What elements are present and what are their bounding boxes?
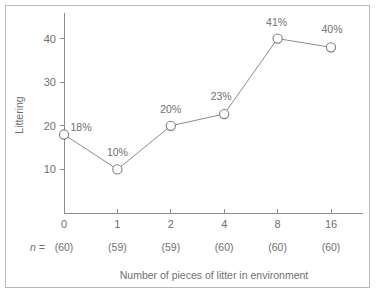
data-point-label: 41% xyxy=(266,16,287,28)
data-point-marker xyxy=(220,109,229,118)
axis-lines xyxy=(64,13,363,213)
data-series-line xyxy=(64,39,331,170)
y-tick-label: 10 xyxy=(44,163,56,175)
sample-size-value: (60) xyxy=(55,241,74,253)
sample-size-value: (60) xyxy=(215,241,234,253)
data-point-label: 20% xyxy=(160,103,181,115)
x-axis-ticks: 0124816 xyxy=(61,209,337,230)
series-polyline xyxy=(64,39,331,170)
data-point-label: 40% xyxy=(321,23,342,35)
y-axis-ticks: 40302010 xyxy=(44,33,64,176)
sample-size-value: (60) xyxy=(322,241,341,253)
y-tick-label: 20 xyxy=(44,120,56,132)
data-point-labels: 18%10%20%23%41%40% xyxy=(70,16,342,159)
data-point-marker xyxy=(59,130,68,139)
data-point-label: 18% xyxy=(70,121,91,133)
y-axis-title: Littering xyxy=(13,96,25,134)
data-point-label: 10% xyxy=(107,146,128,158)
y-tick-label: 30 xyxy=(44,76,56,88)
y-tick-label: 40 xyxy=(44,33,56,45)
data-point-label: 23% xyxy=(211,90,232,102)
sample-size-value: (59) xyxy=(161,241,180,253)
data-point-marker xyxy=(326,43,335,52)
sample-size-prefix: n = xyxy=(30,241,45,253)
x-tick-label: 8 xyxy=(275,218,281,230)
x-tick-label: 1 xyxy=(114,218,120,230)
figure-container: 40302010 0124816 18%10%20%23%41%40% n =(… xyxy=(0,0,376,296)
data-point-marker xyxy=(273,34,282,43)
chart-axes xyxy=(64,13,363,213)
data-point-marker xyxy=(113,165,122,174)
x-tick-label: 0 xyxy=(61,218,67,230)
sample-size-value: (59) xyxy=(108,241,127,253)
sample-size-value: (60) xyxy=(268,241,287,253)
data-point-marker xyxy=(166,121,175,130)
x-tick-label: 2 xyxy=(168,218,174,230)
sample-size-row: n =(60)(59)(59)(60)(60)(60) xyxy=(30,241,340,253)
line-chart: 40302010 0124816 18%10%20%23%41%40% n =(… xyxy=(0,0,376,296)
data-point-markers xyxy=(59,34,335,174)
x-axis-title: Number of pieces of litter in environmen… xyxy=(120,269,309,281)
x-tick-label: 4 xyxy=(221,218,227,230)
x-tick-label: 16 xyxy=(325,218,337,230)
